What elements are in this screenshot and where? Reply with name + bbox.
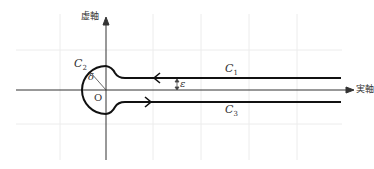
real-axis-label: 実軸 [356, 85, 374, 94]
imaginary-axis-label: 虚軸 [81, 12, 99, 21]
epsilon-label: ε [180, 79, 185, 89]
real-axis-arrow-icon [346, 87, 354, 93]
origin-label: O [94, 93, 102, 103]
imaginary-axis-arrow-icon [103, 17, 109, 25]
diagram-canvas [0, 0, 374, 169]
epsilon-marker [175, 79, 179, 90]
delta-label: δ [88, 72, 94, 82]
c2-label: C2 [74, 58, 87, 69]
c3-label: C3 [225, 104, 238, 115]
c1-label: C1 [225, 63, 238, 74]
